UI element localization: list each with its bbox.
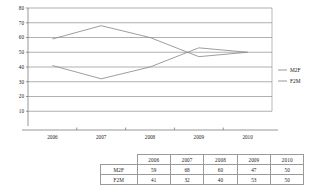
x-tick-label: 2008 bbox=[145, 134, 156, 140]
line-chart: 1020304050607080 20062007200820092010 M2… bbox=[0, 0, 320, 148]
chart-canvas: 1020304050607080 20062007200820092010 M2… bbox=[0, 0, 320, 148]
table-head: 20062007200820092010 bbox=[101, 155, 304, 165]
y-axis-tick-labels: 1020304050607080 bbox=[19, 5, 28, 114]
data-table-container: 20062007200820092010 M2F5968604750F2M413… bbox=[100, 154, 298, 185]
chart-legend: M2FF2M bbox=[278, 67, 301, 84]
table-body: M2F5968604750F2M4132405350 bbox=[101, 165, 304, 185]
table-cell: 50 bbox=[271, 165, 304, 175]
y-tick-label: 50 bbox=[19, 49, 25, 55]
y-tick-label: 60 bbox=[19, 34, 25, 40]
table-column-header: 2006 bbox=[137, 155, 170, 165]
table-cell: 32 bbox=[170, 175, 203, 185]
table-cell: 50 bbox=[271, 175, 304, 185]
table-row: M2F5968604750 bbox=[101, 165, 304, 175]
table-cell: 60 bbox=[204, 165, 237, 175]
table-row-label: F2M bbox=[101, 175, 138, 185]
table-header-row: 20062007200820092010 bbox=[101, 155, 304, 165]
table-row-label: M2F bbox=[101, 165, 138, 175]
x-tick-label: 2009 bbox=[194, 134, 205, 140]
chart-figure: 1020304050607080 20062007200820092010 M2… bbox=[0, 0, 320, 192]
table-column-header: 2007 bbox=[170, 155, 203, 165]
data-table: 20062007200820092010 M2F5968604750F2M413… bbox=[100, 154, 304, 185]
table-cell: 53 bbox=[237, 175, 270, 185]
table-cell: 68 bbox=[170, 165, 203, 175]
table-column-header: 2010 bbox=[271, 155, 304, 165]
x-axis bbox=[22, 128, 278, 131]
y-tick-label: 20 bbox=[19, 93, 25, 99]
legend-label-f2m: F2M bbox=[290, 78, 301, 84]
x-axis-tick-labels: 20062007200820092010 bbox=[47, 134, 253, 140]
y-tick-label: 10 bbox=[19, 108, 25, 114]
y-tick-label: 80 bbox=[19, 5, 25, 11]
x-tick-label: 2007 bbox=[96, 134, 107, 140]
table-cell: 59 bbox=[137, 165, 170, 175]
table-row: F2M4132405350 bbox=[101, 175, 304, 185]
table-cell: 41 bbox=[137, 175, 170, 185]
x-tick-label: 2006 bbox=[47, 134, 58, 140]
y-tick-label: 70 bbox=[19, 20, 25, 26]
gridlines bbox=[28, 8, 272, 111]
y-tick-label: 30 bbox=[19, 79, 25, 85]
table-corner-cell bbox=[101, 155, 138, 165]
table-cell: 40 bbox=[204, 175, 237, 185]
legend-label-m2f: M2F bbox=[290, 67, 301, 73]
table-column-header: 2008 bbox=[204, 155, 237, 165]
table-column-header: 2009 bbox=[237, 155, 270, 165]
y-tick-label: 40 bbox=[19, 64, 25, 70]
x-tick-label: 2010 bbox=[242, 134, 253, 140]
table-cell: 47 bbox=[237, 165, 270, 175]
